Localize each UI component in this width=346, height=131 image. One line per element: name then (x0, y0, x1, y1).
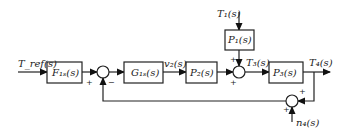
sum2-plus-top: + (230, 55, 237, 64)
signal-t4: T₄(s) (309, 57, 333, 68)
summing-junction-2 (233, 66, 245, 78)
signal-v2: v₂(s) (164, 58, 187, 69)
block-f1s-label: F₁ₛ(s) (51, 67, 79, 78)
sum1-plus: + (86, 78, 93, 87)
signal-n4: n₄(s) (296, 117, 319, 128)
block-diagram: T_ref(s) F₁ₛ(s) G₁ₛ(s) v₂(s) P₂(s) T₁(s)… (0, 0, 346, 131)
block-p2-label: P₂(s) (189, 67, 214, 78)
signal-t3: T₃(s) (246, 57, 270, 68)
summing-junction-1 (97, 66, 109, 78)
sum3-plus-right: + (299, 87, 306, 96)
sum2-plus-left: + (230, 78, 237, 87)
sum3-plus-bottom: + (283, 105, 290, 114)
block-p1-label: P₁(s) (227, 34, 252, 45)
block-g1s-label: G₁ₛ(s) (131, 67, 159, 78)
block-p3-label: P₃(s) (272, 67, 297, 78)
signal-t1: T₁(s) (217, 8, 241, 19)
sum1-minus: − (108, 78, 115, 87)
